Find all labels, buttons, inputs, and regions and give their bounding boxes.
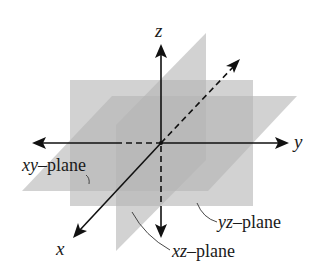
- xy-plane-label-suffix: –plane: [37, 155, 86, 175]
- xz-plane-label: xz–plane: [171, 241, 235, 261]
- xz-plane-label-vars: xz: [171, 241, 187, 261]
- xz-plane-label-suffix: –plane: [186, 241, 235, 261]
- yz-plane-label: yz–plane: [216, 212, 281, 232]
- origin-point: [159, 141, 163, 145]
- x-axis-negative-arrowhead-icon: [226, 59, 240, 73]
- z-axis-label: z: [154, 20, 163, 41]
- x-axis-label: x: [55, 238, 65, 259]
- xy-plane-label: xy–plane: [21, 155, 86, 175]
- y-axis-label: y: [292, 131, 303, 152]
- yz-plane-label-vars: yz: [216, 212, 233, 232]
- xy-plane-label-vars: xy: [21, 155, 38, 175]
- yz-plane-label-suffix: –plane: [232, 212, 281, 232]
- coordinate-planes-diagram: z y x xy–plane yz–plane xz–plane: [0, 0, 329, 279]
